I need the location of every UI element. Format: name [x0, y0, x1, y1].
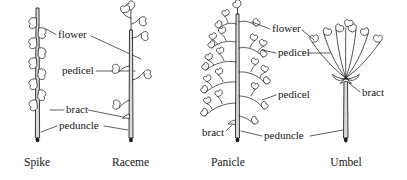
- caption-umbel: Umbel: [330, 156, 361, 168]
- label-peduncle-left: peduncle: [59, 119, 99, 131]
- panicle-base-node: [236, 138, 240, 142]
- panicle-bract: [228, 120, 235, 125]
- raceme-base-node: [129, 138, 133, 142]
- diagram-umbel: [310, 20, 383, 143]
- inflorescence-diagram: flower pedicel bract peduncle: [0, 0, 407, 180]
- spike-base-node: [36, 138, 40, 142]
- label-pedicel-right-lower: pedicel: [278, 88, 310, 100]
- label-pedicel-left: pedicel: [62, 64, 94, 76]
- caption-raceme: Raceme: [112, 156, 149, 168]
- label-bract-umbel: bract: [362, 86, 384, 98]
- leader-peduncle-raceme: [104, 126, 128, 130]
- diagram-raceme: [112, 1, 151, 142]
- umbel-base-node: [344, 138, 348, 143]
- label-flower-left: flower: [58, 28, 87, 40]
- leader-flower-raceme: [91, 36, 141, 59]
- raceme-peduncle: [129, 30, 133, 138]
- leader-pedicel-panicle-lower: [262, 95, 276, 100]
- caption-panicle: Panicle: [211, 156, 245, 168]
- leader-peduncle-umbel: [310, 130, 343, 136]
- umbel-peduncle: [344, 78, 349, 138]
- leader-peduncle-panicle: [241, 131, 262, 136]
- leader-peduncle-spike: [41, 126, 57, 132]
- leader-bract-panicle: [226, 125, 232, 131]
- leader-flower-spike: [45, 29, 56, 35]
- diagram-panicle: [201, 0, 271, 142]
- panicle-peduncle: [236, 14, 240, 138]
- panicle-branches-right: [239, 19, 270, 124]
- label-flower-right: flower: [272, 22, 301, 34]
- label-bract-left: bract: [66, 103, 88, 115]
- leader-bract-raceme: [88, 110, 128, 118]
- diagram-spike: [29, 8, 46, 142]
- leader-bract-umbel: [349, 83, 360, 92]
- label-bract-panicle: bract: [202, 126, 224, 138]
- raceme-bract: [123, 114, 130, 119]
- caption-spike: Spike: [24, 156, 50, 169]
- label-peduncle-right: peduncle: [264, 129, 304, 141]
- label-pedicel-right-upper: pedicel: [278, 46, 310, 58]
- panicle-branches-left: [201, 9, 236, 116]
- leader-flower-panicle: [252, 22, 270, 29]
